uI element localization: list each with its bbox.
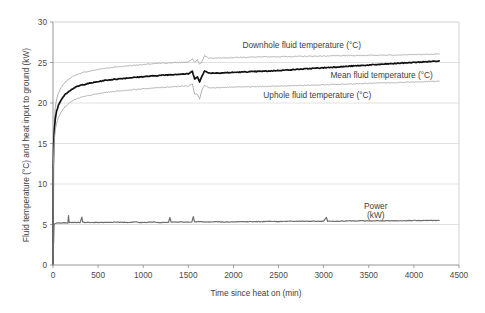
y-tick-label: 30 [21, 18, 47, 26]
x-tick-label: 0 [31, 271, 75, 279]
x-axis-title: Time since heat on (min) [53, 288, 459, 298]
x-tick-label: 4000 [392, 271, 436, 279]
y-tick-label: 5 [21, 221, 47, 229]
x-tick-label: 2000 [211, 271, 255, 279]
y-tick-label: 20 [21, 99, 47, 107]
chart-container: Fluid temperature (°C) and heat input to… [0, 0, 485, 313]
y-tick-label: 0 [21, 261, 47, 269]
x-tick-label: 500 [76, 271, 120, 279]
y-tick-label: 25 [21, 59, 47, 67]
x-tick-label: 4500 [437, 271, 481, 279]
x-tick-label: 1500 [166, 271, 210, 279]
y-tick-label: 15 [21, 140, 47, 148]
series-label: Mean fluid temperature (°C) [330, 70, 432, 80]
series-label: (kW) [367, 210, 385, 220]
x-tick-label: 3000 [302, 271, 346, 279]
y-tick-label: 10 [21, 180, 47, 188]
series-label: Downhole fluid temperature (°C) [243, 40, 362, 50]
x-tick-label: 3500 [347, 271, 391, 279]
x-tick-label: 1000 [121, 271, 165, 279]
series-label: Uphole fluid temperature (°C) [263, 90, 371, 100]
x-tick-label: 2500 [257, 271, 301, 279]
